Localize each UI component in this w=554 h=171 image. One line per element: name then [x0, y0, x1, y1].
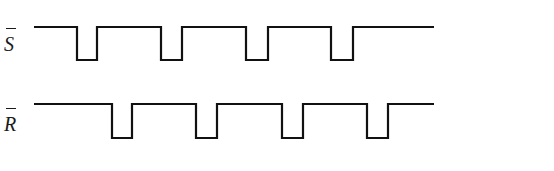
r-bar-waveform — [34, 104, 434, 138]
s-bar-waveform — [34, 27, 434, 60]
timing-diagram — [0, 0, 554, 171]
